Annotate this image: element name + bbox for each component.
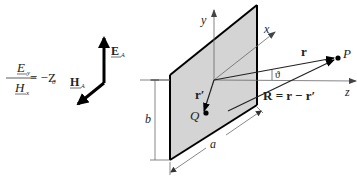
dim-b-label: b	[145, 112, 151, 126]
point-Q-label: Q	[190, 108, 200, 123]
angle-label: ϑ	[275, 69, 280, 80]
eq-numerator: E	[16, 60, 25, 75]
z-axis-label: z	[344, 85, 350, 99]
aperture-radiation-diagram: E y H x = −Z 0 E A H A b	[0, 0, 357, 179]
x-axis-label: x	[263, 22, 270, 36]
r-prime-label: r′	[195, 87, 204, 102]
dim-a-label: a	[210, 137, 216, 151]
point-P	[335, 55, 340, 60]
h-field-label: H	[70, 75, 80, 89]
point-P-label: P	[342, 46, 351, 61]
point-Q	[203, 110, 208, 115]
impedance-equation: E y H x = −Z 0	[6, 60, 56, 97]
eq-denominator: H	[14, 80, 25, 95]
R-equation-label: R = r − r′	[263, 88, 315, 103]
dimension-b: b	[145, 80, 170, 160]
y-axis-label: y	[200, 13, 207, 27]
eq-rhs-sub: 0	[52, 78, 56, 86]
e-field-label: E	[111, 44, 119, 58]
field-vectors: E A H A	[70, 38, 125, 104]
eq-denominator-sub: x	[25, 89, 30, 97]
r-label: r	[301, 44, 307, 59]
